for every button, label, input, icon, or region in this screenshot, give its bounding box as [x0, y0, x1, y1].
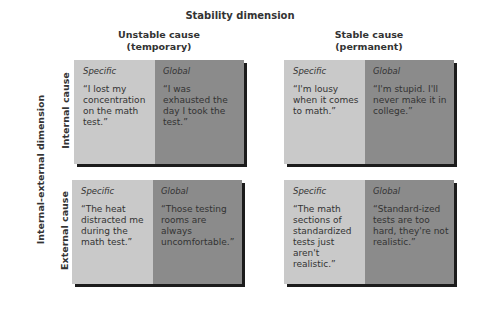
global-label: Global [373, 186, 449, 196]
global-panel: Global “Standard-ized tests are too hard… [365, 180, 454, 284]
global-panel: Global “I was exhausted the day I took t… [155, 60, 244, 164]
column-header-stable: Stable cause (permanent) [294, 29, 444, 53]
specific-quote: “The heat distracted me during the math … [81, 204, 148, 248]
column-header-unstable: Unstable cause (temporary) [84, 29, 234, 53]
global-quote: “I was exhausted the day I took the test… [163, 84, 239, 128]
specific-quote: “I'm lousy when it comes to math.” [293, 84, 360, 117]
specific-panel: Specific “The heat distracted me during … [72, 180, 153, 284]
row-label-external: External cause [59, 181, 70, 281]
global-quote: “Standard-ized tests are too hard, they'… [373, 204, 449, 248]
global-label: Global [161, 186, 237, 196]
column-header-unstable-line1: Unstable cause [84, 29, 234, 41]
column-header-stable-line1: Stable cause [294, 29, 444, 41]
specific-label: Specific [293, 66, 360, 76]
global-quote: “Those testing rooms are always uncomfor… [161, 204, 237, 248]
stability-dimension-title: Stability dimension [140, 10, 340, 21]
column-header-unstable-line2: (temporary) [84, 41, 234, 53]
specific-label: Specific [293, 186, 360, 196]
cell-internal-stable: Specific “I'm lousy when it comes to mat… [284, 60, 454, 164]
specific-quote: “I lost my concentration on the math tes… [83, 84, 150, 128]
specific-label: Specific [81, 186, 148, 196]
row-axis-title: Internal-external dimension [35, 95, 46, 245]
cell-internal-unstable: Specific “I lost my concentration on the… [74, 60, 244, 164]
global-label: Global [373, 66, 449, 76]
global-label: Global [163, 66, 239, 76]
global-quote: “I'm stupid. I'll never make it in colle… [373, 84, 449, 117]
specific-panel: Specific “The math sections of standardi… [284, 180, 365, 284]
cell-external-unstable: Specific “The heat distracted me during … [72, 180, 242, 284]
row-label-internal: Internal cause [60, 61, 71, 161]
global-panel: Global “I'm stupid. I'll never make it i… [365, 60, 454, 164]
column-header-stable-line2: (permanent) [294, 41, 444, 53]
specific-label: Specific [83, 66, 150, 76]
specific-panel: Specific “I'm lousy when it comes to mat… [284, 60, 365, 164]
specific-panel: Specific “I lost my concentration on the… [74, 60, 155, 164]
specific-quote: “The math sections of standardized tests… [293, 204, 360, 270]
global-panel: Global “Those testing rooms are always u… [153, 180, 242, 284]
cell-external-stable: Specific “The math sections of standardi… [284, 180, 454, 284]
